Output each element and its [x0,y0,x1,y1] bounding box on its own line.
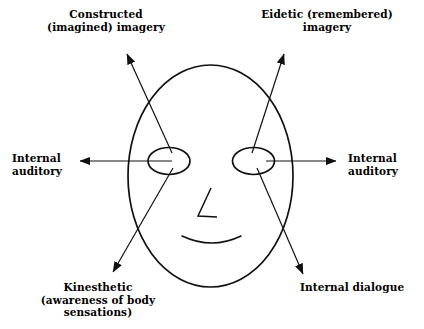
mouth-curve [182,236,241,243]
label-internal-auditory-right: Internal auditory [348,152,418,177]
face-oval [128,65,293,287]
label-constructed-imagery: Constructed (imagined) imagery [36,8,176,33]
label-eidetic-imagery: Eidetic (remembered) imagery [252,8,402,33]
label-internal-auditory-left: Internal auditory [12,152,74,177]
diagram-canvas: Constructed (imagined) imagery Eidetic (… [0,0,424,329]
label-kinesthetic: Kinesthetic (awareness of body sensation… [8,281,188,319]
kinesthetic-arrow [113,168,173,272]
eidetic-imagery-arrow [252,54,284,153]
nose-line [198,188,217,217]
label-internal-dialogue: Internal dialogue [300,281,424,294]
internal-dialogue-arrow [257,168,303,274]
